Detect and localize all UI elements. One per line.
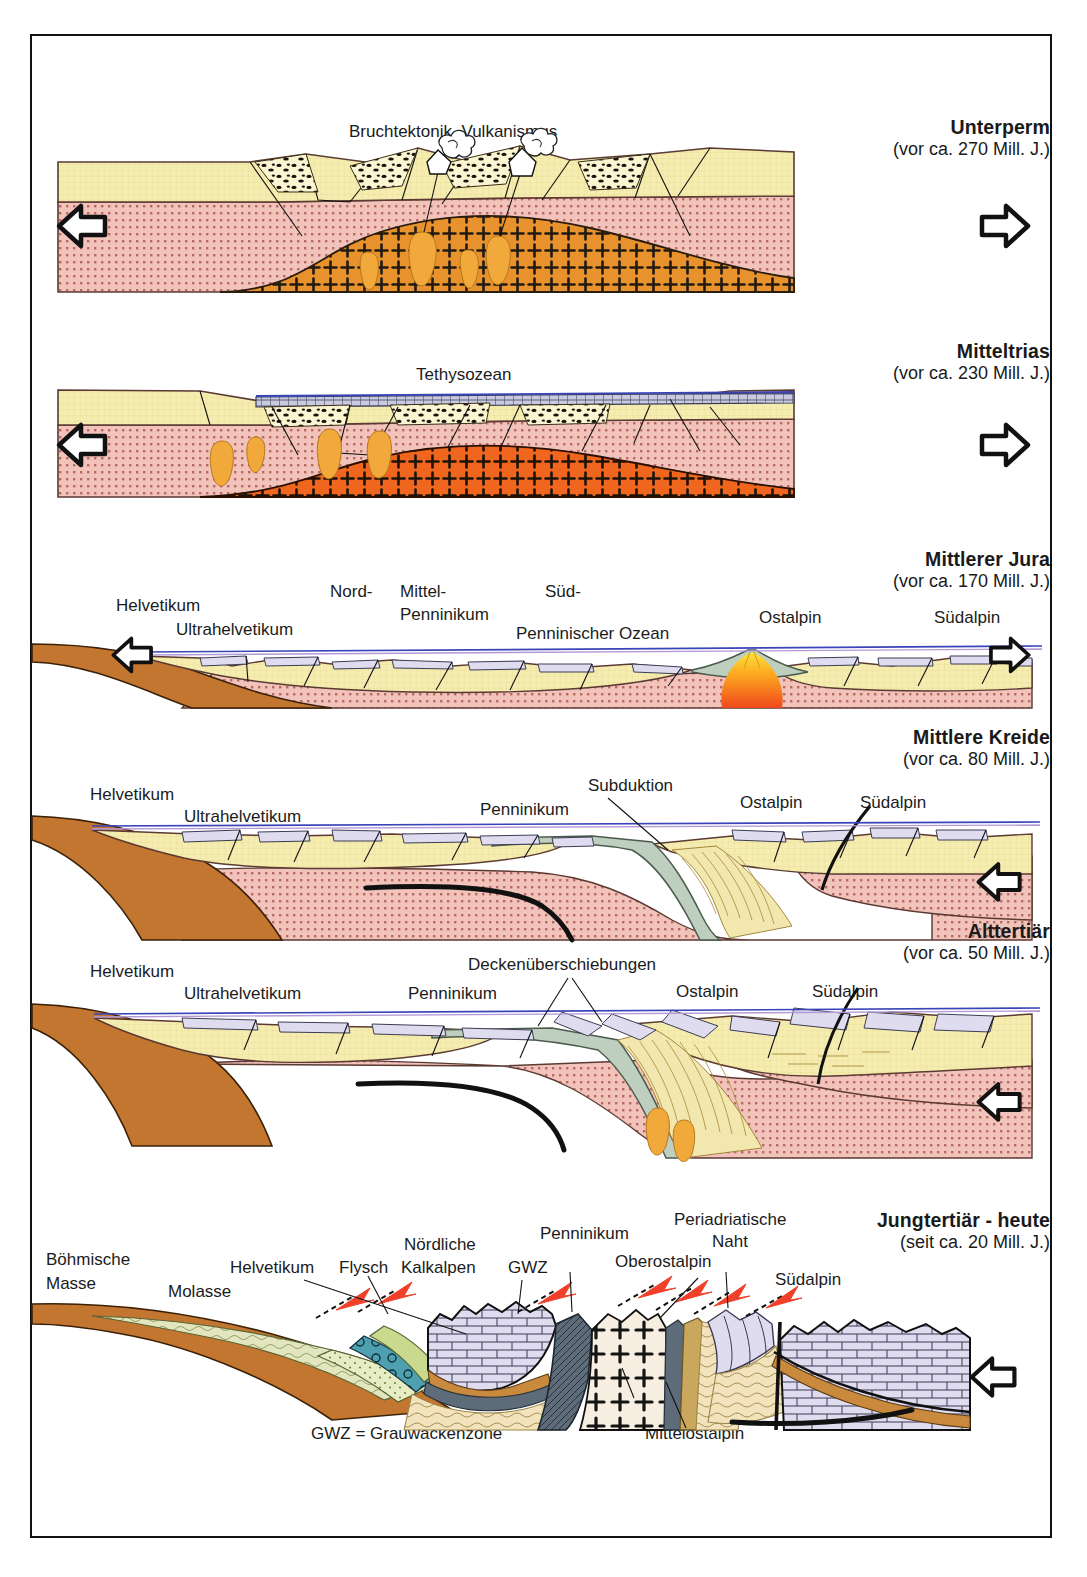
panel-title-jungtertiaer: Jungtertiär - heute (seit ca. 20 Mill. J… — [877, 1209, 1050, 1253]
figure-root: Unterperm (vor ca. 270 Mill. J.) Bruchte… — [0, 0, 1087, 1577]
label-boehmische: Böhmische — [46, 1250, 130, 1270]
label-noerdliche: Nördliche — [404, 1235, 476, 1255]
arrow-left-jungtertiaer — [968, 1352, 1020, 1402]
label-penninikum-jung: Penninikum — [540, 1224, 629, 1244]
leader-lines-jungtertiaer — [230, 1272, 850, 1442]
label-periadriatische: Periadriatische — [674, 1210, 786, 1230]
panel-age-text: (seit ca. 20 Mill. J.) — [877, 1232, 1050, 1253]
panel-title-text: Jungtertiär - heute — [877, 1209, 1050, 1232]
panel-jungtertiaer: Jungtertiär - heute (seit ca. 20 Mill. J… — [0, 0, 1087, 1520]
label-naht: Naht — [712, 1232, 748, 1252]
